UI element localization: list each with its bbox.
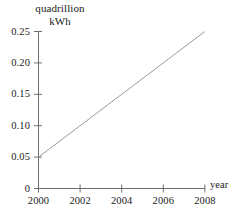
- y-tick-label-0.25: 0.25: [0, 27, 30, 38]
- x-tick-label-2000: 2000: [19, 196, 59, 207]
- plot-area: [0, 0, 237, 212]
- line-chart: quadrillion kWh 0.25 0.20 0.15 0.10 0.05…: [0, 0, 237, 212]
- y-tick-label-0.10: 0.10: [0, 121, 30, 132]
- y-tick-label-0.15: 0.15: [0, 89, 30, 100]
- data-series-line: [39, 32, 205, 158]
- y-tick-label-0.05: 0.05: [0, 152, 30, 163]
- x-axis-title: year: [210, 180, 228, 191]
- x-tick-label-2002: 2002: [60, 196, 100, 207]
- x-tick-label-2006: 2006: [143, 196, 183, 207]
- x-tick-label-2004: 2004: [102, 196, 142, 207]
- x-tick-label-2008: 2008: [185, 196, 225, 207]
- y-tick-label-0.20: 0.20: [0, 58, 30, 69]
- y-tick-label-0: 0: [0, 184, 30, 195]
